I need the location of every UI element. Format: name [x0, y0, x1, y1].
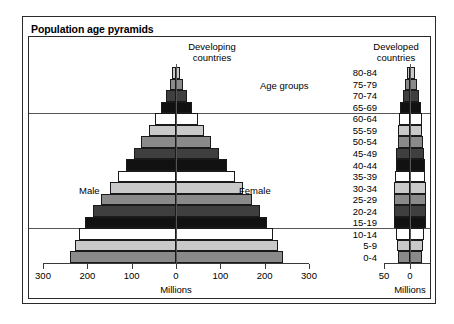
axis-tick	[309, 264, 310, 269]
age-group-label: 80-84	[333, 67, 377, 78]
pyramid-row	[384, 159, 431, 171]
pyramid-row	[384, 102, 431, 114]
x-axis-developed: 50050	[384, 263, 431, 264]
bar-male-30-34	[394, 182, 410, 194]
bar-female-55-59	[176, 125, 204, 137]
center-axis-developing	[176, 64, 177, 266]
bar-male-0-4	[70, 251, 176, 263]
figure-container: Population age pyramids Developing count…	[22, 16, 436, 304]
age-group-label: 10-14	[333, 229, 377, 240]
bar-male-10-14	[396, 228, 410, 240]
bar-male-5-9	[75, 240, 176, 252]
pyramid-row	[384, 67, 431, 79]
age-group-label: 30-34	[333, 183, 377, 194]
bar-female-30-34	[176, 182, 243, 194]
axis-tick	[87, 264, 88, 269]
bar-female-25-29	[410, 194, 426, 206]
pyramid-row	[384, 125, 431, 137]
bar-male-30-34	[110, 182, 177, 194]
bar-female-30-34	[410, 182, 426, 194]
bar-male-60-64	[399, 113, 410, 125]
bar-male-70-74	[166, 90, 176, 102]
bar-female-0-4	[176, 251, 283, 263]
bar-female-65-69	[176, 102, 192, 114]
bar-female-10-14	[410, 228, 424, 240]
pyramid-row	[384, 90, 431, 102]
bar-female-35-39	[410, 171, 425, 183]
bar-male-40-44	[396, 159, 410, 171]
bar-female-15-19	[410, 217, 426, 229]
bar-female-20-24	[410, 205, 426, 217]
bar-male-15-19	[85, 217, 176, 229]
bar-male-45-49	[396, 148, 410, 160]
bar-female-75-79	[410, 79, 417, 91]
plot-area: Developing countries Developed countries…	[28, 36, 431, 299]
axis-tick	[410, 264, 411, 269]
bar-male-55-59	[398, 125, 410, 137]
age-group-label: 70-74	[333, 90, 377, 101]
bar-female-45-49	[410, 148, 424, 160]
pyramid-row	[384, 240, 431, 252]
bar-male-10-14	[79, 228, 176, 240]
bar-female-50-54	[176, 136, 211, 148]
bar-female-60-64	[176, 113, 198, 125]
axis-tick	[176, 264, 177, 269]
bar-male-35-39	[395, 171, 410, 183]
bar-female-40-44	[176, 159, 227, 171]
pyramid-row	[384, 113, 431, 125]
age-group-label: 50-54	[333, 136, 377, 147]
bar-female-45-49	[176, 148, 219, 160]
axis-tick-label: 200	[257, 270, 273, 281]
age-group-label: 65-69	[333, 102, 377, 113]
bar-male-45-49	[134, 148, 176, 160]
axis-tick	[220, 264, 221, 269]
bar-female-65-69	[410, 102, 421, 114]
age-group-label: 55-59	[333, 125, 377, 136]
bar-female-60-64	[410, 113, 422, 125]
label-male: Male	[79, 185, 100, 196]
age-groups-header: Age groups	[260, 80, 309, 91]
center-axis-developed	[410, 64, 411, 266]
bar-female-15-19	[176, 217, 267, 229]
axis-tick-label: 300	[301, 270, 317, 281]
bar-female-55-59	[410, 125, 422, 137]
label-female: Female	[239, 185, 271, 196]
bar-male-5-9	[397, 240, 410, 252]
age-group-label: 25-29	[333, 194, 377, 205]
pyramid-row	[384, 148, 431, 160]
bar-male-65-69	[161, 102, 176, 114]
x-axis-developing: 3002001000100200300	[43, 263, 309, 264]
age-group-label: 20-24	[333, 206, 377, 217]
axis-tick-label: 0	[407, 270, 412, 281]
bar-male-65-69	[400, 102, 410, 114]
axis-tick-label: 200	[79, 270, 95, 281]
bar-female-50-54	[410, 136, 423, 148]
bar-male-0-4	[398, 251, 410, 263]
axis-tick	[132, 264, 133, 269]
bar-female-5-9	[410, 240, 423, 252]
pyramid-row	[384, 79, 431, 91]
bar-female-75-79	[176, 79, 183, 91]
figure-title-bar: Population age pyramids	[23, 17, 435, 36]
panel-heading-developing: Developing countries	[157, 41, 267, 63]
axis-tick-label: 0	[173, 270, 178, 281]
pyramid-row	[384, 136, 431, 148]
bar-male-50-54	[398, 136, 410, 148]
age-group-label: 45-49	[333, 148, 377, 159]
page-title: Population age pyramids	[31, 23, 154, 35]
bar-female-10-14	[176, 228, 273, 240]
axis-tick-label: 100	[212, 270, 228, 281]
axis-caption-developing: Millions	[160, 284, 192, 295]
axis-caption-developed: Millions	[394, 284, 426, 295]
age-group-label: 5-9	[333, 240, 377, 251]
age-group-label: 15-19	[333, 217, 377, 228]
bar-male-60-64	[155, 113, 176, 125]
pyramid-developing	[43, 67, 309, 263]
bar-female-70-74	[410, 90, 419, 102]
axis-tick-label: 100	[124, 270, 140, 281]
bar-male-15-19	[394, 217, 410, 229]
bar-female-20-24	[176, 205, 260, 217]
pyramid-row	[384, 171, 431, 183]
bar-male-50-54	[141, 136, 176, 148]
axis-tick	[384, 264, 385, 269]
